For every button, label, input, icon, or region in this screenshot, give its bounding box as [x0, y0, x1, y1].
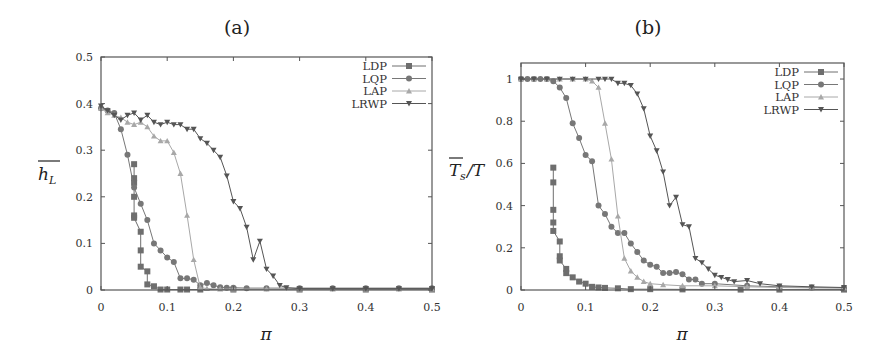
circle-marker [570, 120, 576, 126]
triangle-up-marker [628, 268, 634, 273]
triangle-up-marker [144, 124, 150, 129]
triangle-up-marker [615, 213, 621, 218]
y-tick-label: 0.4 [76, 98, 94, 111]
x-tick-label: 0.3 [706, 301, 724, 314]
panel-b-plot-area: 00.10.20.30.40.500.20.40.60.81LDPLQPLAPL… [496, 63, 853, 314]
triangle-up-marker [184, 212, 190, 217]
circle-marker [602, 211, 608, 217]
panel-a-plot-area: 00.10.20.30.40.500.10.20.30.40.5LDPLQPLA… [76, 51, 441, 314]
square-marker [583, 281, 589, 287]
circle-marker [818, 82, 824, 88]
circle-marker [660, 270, 666, 276]
square-marker [138, 247, 144, 253]
triangle-down-marker [647, 134, 653, 139]
triangle-up-marker [171, 150, 177, 155]
legend-label: LRWP [763, 103, 799, 117]
triangle-down-marker [641, 106, 647, 111]
circle-marker [589, 158, 595, 164]
square-marker [576, 279, 582, 285]
square-marker [406, 63, 412, 69]
legend-label: LRWP [351, 97, 387, 111]
triangle-down-marker [237, 206, 243, 211]
y-tick-label: 0.6 [496, 157, 514, 170]
panel-b-title: (b) [635, 16, 662, 38]
circle-marker [191, 277, 197, 283]
triangle-down-marker [124, 113, 130, 118]
triangle-down-marker [667, 203, 673, 208]
triangle-up-marker [641, 279, 647, 284]
x-tick-label: 0.5 [423, 301, 441, 314]
circle-marker [151, 240, 157, 246]
series-ldp [550, 165, 847, 293]
triangle-up-marker [621, 255, 627, 260]
square-marker [628, 286, 634, 292]
square-marker [550, 165, 556, 171]
panel-a-title: (a) [224, 16, 250, 38]
square-marker [144, 268, 150, 274]
square-marker [138, 264, 144, 270]
circle-marker [138, 201, 144, 207]
circle-marker [621, 230, 627, 236]
y-tick-label: 0.3 [76, 144, 94, 157]
circle-marker [641, 257, 647, 263]
svg-text:L: L [48, 174, 56, 187]
square-marker [589, 284, 595, 290]
circle-marker [563, 95, 569, 101]
square-marker [131, 194, 137, 200]
triangle-up-marker [608, 156, 614, 161]
y-tick-label: 0.8 [496, 115, 514, 128]
x-tick-label: 0.1 [577, 301, 595, 314]
series-lqp [98, 105, 435, 291]
square-marker [550, 219, 556, 225]
circle-marker [634, 249, 640, 255]
panel-a-ylabel: h L [38, 161, 60, 187]
circle-marker [680, 271, 686, 277]
circle-marker [204, 280, 210, 286]
square-marker [131, 161, 137, 167]
square-marker [131, 215, 137, 221]
y-tick-label: 0.5 [76, 51, 94, 64]
square-marker [151, 283, 157, 289]
square-marker [138, 229, 144, 235]
x-tick-label: 0.3 [291, 301, 309, 314]
circle-marker [692, 276, 698, 282]
circle-marker [647, 262, 653, 268]
x-tick-label: 0.1 [158, 301, 176, 314]
svg-text:h: h [38, 164, 49, 184]
svg-text:s: s [460, 170, 466, 183]
y-tick-label: 0.1 [76, 237, 94, 250]
x-tick-label: 0.2 [225, 301, 243, 314]
circle-marker [171, 259, 177, 265]
triangle-down-marker [197, 136, 203, 141]
circle-marker [686, 276, 692, 282]
circle-marker [667, 270, 673, 276]
square-marker [557, 257, 563, 263]
circle-marker [596, 203, 602, 209]
circle-marker [184, 275, 190, 281]
square-marker [818, 69, 824, 75]
square-marker [570, 274, 576, 280]
panel-b-line-chart: (b) π T s /T 00.10.20.30.40.500.20.40.60… [449, 16, 853, 344]
circle-marker [177, 275, 183, 281]
panel-a-xlabel: π [259, 324, 272, 344]
triangle-down-marker [244, 225, 250, 230]
square-marker [550, 207, 556, 213]
panel-a-line-chart: (a) π h L 00.10.20.30.40.500.10.20.30.40… [38, 16, 441, 344]
circle-marker [144, 217, 150, 223]
triangle-down-marker [250, 257, 256, 262]
circle-marker [608, 224, 614, 230]
series-lrwp [98, 104, 435, 292]
svg-text:/T: /T [465, 160, 486, 180]
triangle-up-marker [191, 257, 197, 262]
triangle-down-marker [118, 118, 124, 123]
y-tick-label: 0.2 [76, 191, 94, 204]
x-tick-label: 0 [98, 301, 105, 314]
triangle-down-marker [257, 239, 263, 244]
circle-marker [131, 184, 137, 190]
x-tick-label: 0.2 [641, 301, 659, 314]
circle-marker [673, 269, 679, 275]
triangle-down-marker [660, 169, 666, 174]
triangle-down-marker [686, 224, 692, 229]
y-tick-label: 1 [506, 73, 513, 86]
circle-marker [164, 254, 170, 260]
